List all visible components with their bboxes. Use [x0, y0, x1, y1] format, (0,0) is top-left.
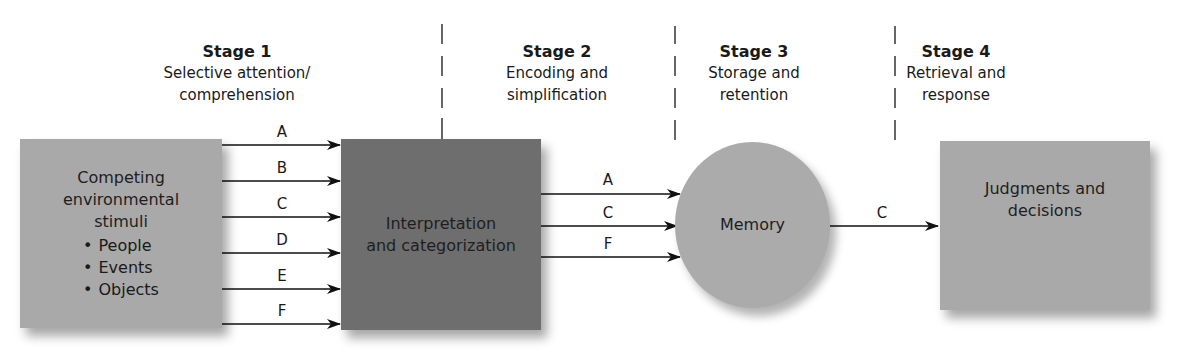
edge-label-e: E	[272, 268, 292, 284]
stimuli-list: People Events Objects	[83, 235, 159, 301]
edge-label-c: C	[272, 196, 292, 212]
stimuli-title-line-3: stimuli	[94, 211, 148, 233]
edge-label-f-to-memory: F	[598, 236, 618, 252]
edge-label-d: D	[272, 232, 292, 248]
memory-label: Memory	[720, 214, 785, 236]
edge-label-c-to-memory: C	[598, 205, 618, 221]
stimuli-title-line-1: Competing	[77, 167, 165, 189]
edge-label-a: A	[272, 124, 292, 140]
interpretation-box: Interpretation and categorization	[341, 139, 541, 330]
judgments-line-1: Judgments and	[985, 178, 1106, 200]
stimuli-title-line-2: environmental	[63, 189, 179, 211]
stimuli-box: Competing environmental stimuli People E…	[20, 139, 222, 328]
edge-label-b: B	[272, 160, 292, 176]
judgments-line-2: decisions	[1008, 200, 1082, 222]
edge-label-f: F	[272, 303, 292, 319]
stimuli-item-events: Events	[83, 257, 159, 279]
interpretation-line-1: Interpretation	[386, 213, 497, 235]
edge-label-a-to-memory: A	[598, 172, 618, 188]
interpretation-line-2: and categorization	[366, 235, 516, 257]
stimuli-item-objects: Objects	[83, 279, 159, 301]
edge-label-c-to-judgments: C	[872, 205, 892, 221]
memory-circle: Memory	[675, 142, 830, 308]
stimuli-item-people: People	[83, 235, 159, 257]
judgments-box: Judgments and decisions	[940, 141, 1150, 310]
